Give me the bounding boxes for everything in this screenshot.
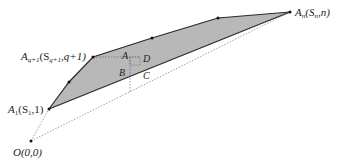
- point-an: [289, 11, 292, 14]
- label-inner-b: B: [119, 67, 125, 78]
- label-an: An(Sn,n): [294, 6, 330, 20]
- point-a1: [48, 108, 51, 111]
- label-inner-d: D: [142, 53, 151, 64]
- label-inner-c: C: [143, 70, 150, 81]
- point-a2: [68, 81, 71, 84]
- ray-o-to-an: [31, 12, 290, 141]
- label-o: O(0,0): [13, 146, 42, 159]
- point-o: [30, 140, 33, 143]
- point-aq1: [92, 56, 95, 59]
- point-mid2: [217, 17, 220, 20]
- diagram-canvas: O(0,0) A1(S1,1) Aq+1(Sq+1,q+1) An(Sn,n) …: [0, 0, 340, 168]
- label-a1: A1(S1,1): [7, 103, 44, 117]
- label-inner-a: A: [121, 50, 129, 61]
- point-mid1: [151, 37, 154, 40]
- label-aq1: Aq+1(Sq+1,q+1): [20, 50, 86, 64]
